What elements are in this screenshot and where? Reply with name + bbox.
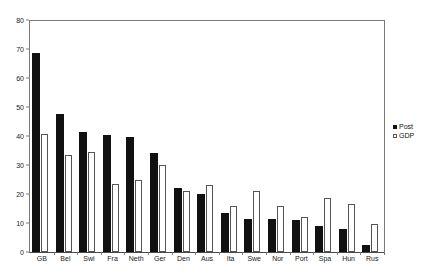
legend-item-post: Post xyxy=(393,122,414,131)
bar-group xyxy=(54,20,78,252)
bar-gdp xyxy=(371,224,378,252)
x-tick-label: Ger xyxy=(154,255,166,262)
filled-square-icon xyxy=(393,125,397,129)
bar-gdp xyxy=(135,180,142,253)
bar-gdp xyxy=(206,185,213,252)
x-tick-label: Port xyxy=(295,255,308,262)
x-tick-label: Rus xyxy=(366,255,378,262)
y-tick-label: 80 xyxy=(16,17,24,24)
legend-item-gdp: GDP xyxy=(393,131,414,140)
bar-group xyxy=(219,20,243,252)
bar-group xyxy=(266,20,290,252)
bar-post xyxy=(221,213,229,252)
bar-post xyxy=(174,188,182,252)
x-tick-label: GB xyxy=(37,255,47,262)
y-tick-label: 60 xyxy=(16,75,24,82)
x-tick-label: Spa xyxy=(319,255,331,262)
bar-group xyxy=(337,20,361,252)
bar-group xyxy=(101,20,125,252)
x-tick-label: Den xyxy=(177,255,190,262)
x-tick-label: Bel xyxy=(60,255,70,262)
bar-gdp xyxy=(112,184,119,252)
bar-post xyxy=(244,219,252,252)
bars-layer xyxy=(30,20,384,252)
x-tick-label: Neth xyxy=(129,255,144,262)
bar-gdp xyxy=(65,155,72,252)
y-tick-label: 10 xyxy=(16,220,24,227)
bar-group xyxy=(242,20,266,252)
x-axis: GBBelSwiFraNethGerDenAusItaSweNorPortSpa… xyxy=(30,255,384,271)
bar-group xyxy=(313,20,337,252)
bar-post xyxy=(126,137,134,252)
bar-post xyxy=(339,229,347,252)
y-tick-label: 70 xyxy=(16,46,24,53)
bar-group xyxy=(360,20,384,252)
bar-gdp xyxy=(230,206,237,252)
bar-group xyxy=(77,20,101,252)
x-tick-label: Ita xyxy=(227,255,235,262)
y-tick-label: 50 xyxy=(16,104,24,111)
x-tick-label: Swe xyxy=(247,255,261,262)
bar-group xyxy=(30,20,54,252)
legend-label-gdp: GDP xyxy=(399,131,414,140)
y-tick-label: 40 xyxy=(16,133,24,140)
bar-gdp xyxy=(41,134,48,252)
y-tick-label: 30 xyxy=(16,162,24,169)
bar-group xyxy=(148,20,172,252)
y-tick-label: 0 xyxy=(20,249,24,256)
legend-label-post: Post xyxy=(399,122,413,131)
bar-gdp xyxy=(253,191,260,252)
bar-gdp xyxy=(183,191,190,252)
bar-group xyxy=(195,20,219,252)
bar-chart: 01020304050607080 GBBelSwiFraNethGerDenA… xyxy=(0,0,432,280)
bar-group xyxy=(290,20,314,252)
bar-post xyxy=(292,220,300,252)
bar-post xyxy=(56,114,64,252)
bar-gdp xyxy=(88,152,95,252)
x-tick-mark xyxy=(384,252,385,255)
bar-post xyxy=(268,219,276,252)
bar-post xyxy=(79,132,87,252)
bar-post xyxy=(32,53,40,252)
y-tick-label: 20 xyxy=(16,191,24,198)
y-axis: 01020304050607080 xyxy=(0,20,29,253)
bar-post xyxy=(315,226,323,252)
open-square-icon xyxy=(393,134,397,138)
bar-post xyxy=(103,135,111,252)
bar-gdp xyxy=(301,217,308,252)
bar-group xyxy=(124,20,148,252)
bar-group xyxy=(172,20,196,252)
x-tick-label: Nor xyxy=(272,255,283,262)
bar-gdp xyxy=(159,165,166,252)
bar-post xyxy=(197,194,205,252)
x-tick-label: Swi xyxy=(83,255,94,262)
bar-gdp xyxy=(348,204,355,252)
chart-legend: Post GDP xyxy=(393,122,414,140)
bar-post xyxy=(150,153,158,252)
bar-gdp xyxy=(324,198,331,252)
x-tick-label: Fra xyxy=(107,255,118,262)
x-tick-label: Aus xyxy=(201,255,213,262)
x-tick-label: Hun xyxy=(342,255,355,262)
bar-gdp xyxy=(277,206,284,252)
bar-post xyxy=(362,245,370,252)
